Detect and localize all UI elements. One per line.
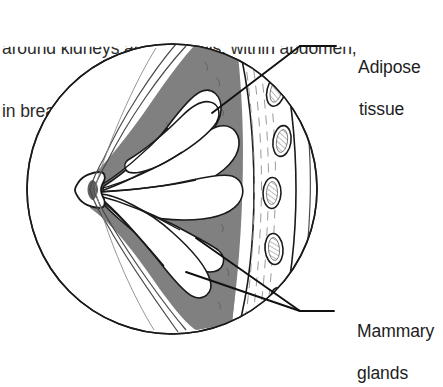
label-adipose-line-2: tissue [359,99,404,119]
label-mammary-line-2: glands [357,363,408,383]
rib-3 [262,177,281,209]
label-mammary-glands: Mammary glands [338,300,434,387]
label-mammary-line-1: Mammary [357,321,434,341]
label-adipose-line-1: Adipose [358,57,421,77]
label-adipose-tissue: Adipose tissue [340,36,421,141]
